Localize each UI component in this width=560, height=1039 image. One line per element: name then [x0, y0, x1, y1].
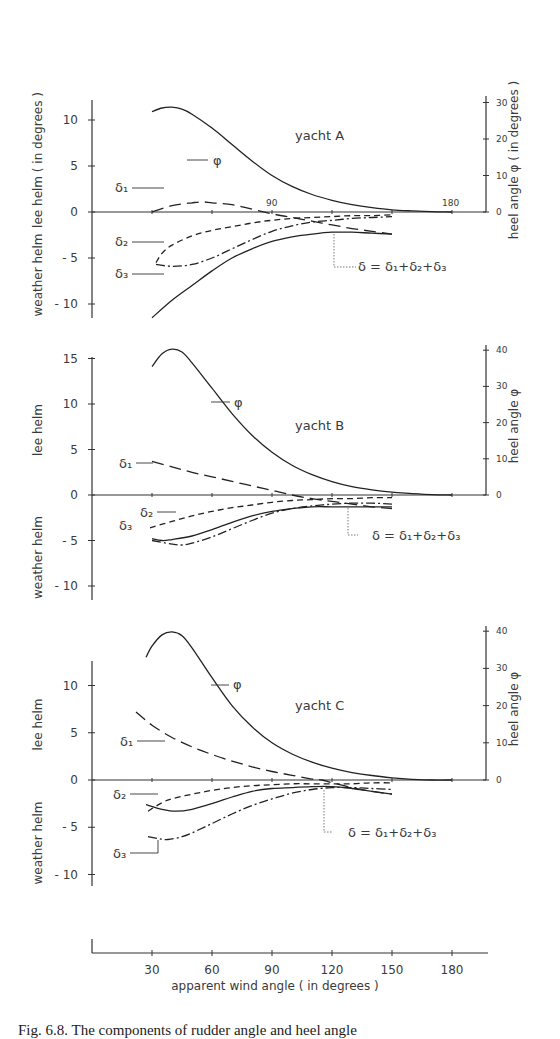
- panel-yacht-b: 151050- 5- 10010203040lee helmweather he…: [31, 345, 521, 600]
- curve-label: δ₂: [140, 505, 153, 520]
- curve-delta2: [150, 498, 392, 528]
- panel-yacht-c: 1050- 5- 10010203040lee helmweather helm…: [31, 626, 521, 886]
- left-tick-label: 10: [63, 397, 78, 411]
- right-tick-label: 40: [496, 345, 508, 355]
- curve-label: δ₃: [119, 518, 132, 533]
- curve-label: φ: [234, 395, 243, 410]
- left-tick-label: 5: [70, 443, 78, 457]
- right-tick-label: 20: [496, 134, 508, 144]
- panel-title: yacht C: [295, 698, 344, 713]
- formula-leader: [334, 234, 356, 267]
- right-tick-label: 10: [496, 738, 508, 748]
- chart-panels: 1050- 5- 100102030lee helm ( in degrees …: [31, 81, 521, 886]
- formula-label: δ = δ₁+δ₂+δ₃: [348, 825, 436, 840]
- left-tick-label: 0: [70, 205, 78, 219]
- left-tick-label: 0: [70, 488, 78, 502]
- x-tick-label: 30: [144, 963, 159, 977]
- heel-angle-label: heel angle φ ( in degrees ): [507, 81, 521, 239]
- formula-leader: [348, 508, 358, 535]
- right-tick-label: 10: [496, 454, 508, 464]
- lee-helm-label: lee helm: [31, 404, 45, 456]
- left-tick-label: 5: [70, 159, 78, 173]
- right-tick-label: 30: [496, 98, 508, 108]
- left-tick-label: - 5: [62, 820, 78, 834]
- weather-helm-label: weather helm: [31, 801, 45, 884]
- left-tick-label: 10: [63, 113, 78, 127]
- left-tick-label: - 5: [62, 534, 78, 548]
- right-tick-label: 40: [496, 626, 508, 636]
- left-tick-label: - 5: [62, 251, 78, 265]
- curve-delta: [152, 507, 392, 541]
- curve-label: δ₁: [119, 456, 132, 471]
- x-tick-label: 150: [381, 963, 404, 977]
- left-tick-label: - 10: [55, 868, 78, 882]
- right-tick-label: 30: [496, 381, 508, 391]
- curve-label: δ₃: [115, 266, 128, 281]
- weather-helm-label: weather helm: [31, 516, 45, 599]
- right-tick-label: 20: [496, 701, 508, 711]
- formula-leader: [324, 790, 332, 832]
- left-tick-label: 5: [70, 726, 78, 740]
- curve-label: δ₁: [120, 734, 133, 749]
- x-axis-apparent-wind-angle: 306090120150180apparent wind angle ( in …: [92, 939, 488, 993]
- formula-label: δ = δ₁+δ₂+δ₃: [358, 259, 446, 274]
- panel-title: yacht A: [295, 128, 344, 143]
- lee-helm-label: lee helm: [31, 699, 45, 751]
- left-tick-label: 15: [63, 352, 78, 366]
- x-tick-label: 120: [321, 963, 344, 977]
- curve-label: δ₂: [113, 787, 126, 802]
- left-tick-label: 0: [70, 773, 78, 787]
- right-tick-label: 0: [496, 775, 502, 785]
- curve-delta1: [136, 712, 392, 794]
- left-tick-label: 10: [63, 679, 78, 693]
- right-tick-label: 10: [496, 171, 508, 181]
- panel-yacht-a: 1050- 5- 100102030lee helm ( in degrees …: [31, 81, 521, 318]
- curve-delta: [152, 232, 392, 318]
- curve-delta2: [156, 215, 392, 263]
- right-tick-label: 0: [496, 490, 502, 500]
- curve-delta: [146, 786, 392, 811]
- curve-delta2: [148, 783, 392, 811]
- heel-angle-label: heel angle φ: [507, 389, 521, 464]
- curve-label: δ₁: [115, 180, 128, 195]
- right-tick-label: 0: [496, 207, 502, 217]
- label-leader: [130, 840, 158, 853]
- x-tick-label: 90: [264, 963, 279, 977]
- curve-label: φ: [213, 153, 222, 168]
- figure-caption: Fig. 6.8. The components of rudder angle…: [18, 1022, 357, 1039]
- curve-label: 90: [266, 198, 278, 208]
- left-tick-label: - 10: [55, 297, 78, 311]
- right-tick-label: 30: [496, 663, 508, 673]
- curve-label: φ: [233, 677, 242, 692]
- x-axis-title: apparent wind angle ( in degrees ): [171, 979, 378, 993]
- curve-delta1: [152, 461, 392, 508]
- formula-label: δ = δ₁+δ₂+δ₃: [372, 528, 460, 543]
- heel-angle-label: heel angle φ: [507, 672, 521, 747]
- curve-label: δ₂: [115, 234, 128, 249]
- lee-helm-label: lee helm ( in degrees ): [31, 92, 45, 228]
- x-tick-label: 60: [204, 963, 219, 977]
- right-tick-label: 20: [496, 418, 508, 428]
- curve-delta3: [152, 503, 392, 545]
- curve-label: δ₃: [113, 846, 126, 861]
- curve-label: 180: [442, 198, 459, 208]
- weather-helm-label: weather helm: [31, 233, 45, 316]
- x-tick-label: 180: [441, 963, 464, 977]
- left-tick-label: - 10: [55, 579, 78, 593]
- panel-title: yacht B: [295, 418, 344, 433]
